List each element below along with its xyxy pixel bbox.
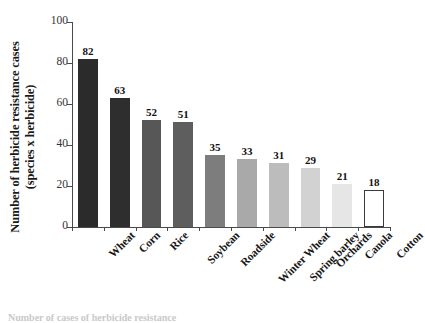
bar[interactable] [78,59,98,227]
bar[interactable] [364,190,384,227]
bar-slot[interactable]: 82 [78,22,98,227]
bar-value-label: 52 [146,106,157,118]
bar-slot[interactable]: 18 [364,22,384,227]
y-tick-label: 80 [57,55,69,67]
bar-value-label: 21 [337,170,348,182]
x-axis-labels: WheatCornRiceSoybeanRoadsideWinter Wheat… [72,229,392,317]
bar-value-label: 63 [114,84,125,96]
bar-value-label: 33 [241,145,252,157]
bar[interactable] [173,122,193,227]
bar[interactable] [205,155,225,227]
bar-slot[interactable]: 63 [110,22,130,227]
x-axis-label: Wheat [107,229,138,260]
bar[interactable] [110,98,130,227]
x-axis-label: Roadside [237,229,276,268]
bar-value-label: 31 [273,149,284,161]
clipped-caption: Number of cases of herbicide resistance [8,312,398,323]
y-tick-label: 20 [57,178,69,190]
y-tick-label: 40 [57,137,69,149]
bar-slot[interactable]: 52 [142,22,162,227]
y-axis-title: Number of herbicide resistance cases (sp… [3,22,43,252]
x-axis-label: Cotton [393,229,425,261]
y-tick-label: 60 [57,96,69,108]
y-axis-title-line-2: (species x herbicide) [23,85,38,190]
y-axis-line [72,22,73,227]
y-axis-title-line-1: Number of herbicide resistance cases [8,41,23,232]
bar[interactable] [142,120,162,227]
y-tick-label: 100 [51,14,68,26]
x-axis-label: Soybean [205,229,242,266]
bar[interactable] [269,163,289,227]
bar-slot[interactable]: 33 [237,22,257,227]
bar-slot[interactable]: 35 [205,22,225,227]
bar-slot[interactable]: 31 [269,22,289,227]
bar[interactable] [301,168,321,227]
bar-value-label: 82 [82,45,93,57]
bar-value-label: 35 [210,141,221,153]
plot-area: 020406080100 82635251353331292118 [72,22,390,227]
bar[interactable] [332,184,352,227]
bar-value-label: 18 [369,176,380,188]
bar-slot[interactable]: 29 [301,22,321,227]
bar-slot[interactable]: 21 [332,22,352,227]
y-tick-label: 0 [62,219,68,231]
bar[interactable] [237,159,257,227]
x-axis-label: Corn [136,229,162,255]
bar-value-label: 51 [178,108,189,120]
x-axis-label: Rice [167,229,190,252]
bar-slot[interactable]: 51 [173,22,193,227]
bar-value-label: 29 [305,154,316,166]
